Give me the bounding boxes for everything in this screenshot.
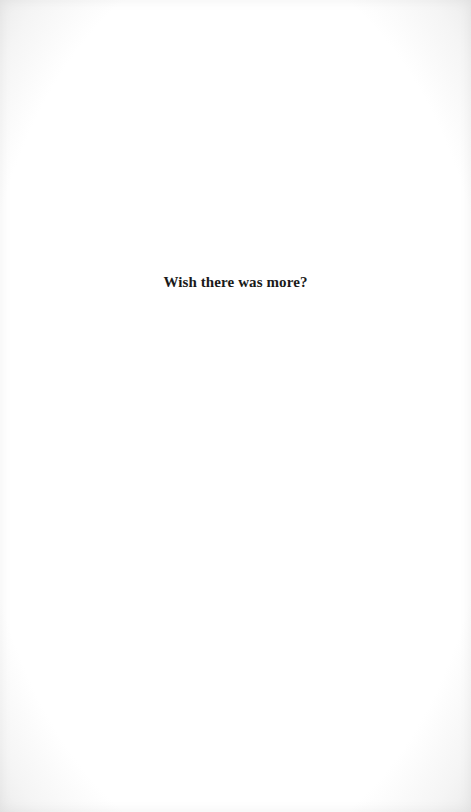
page-heading: Wish there was more?: [0, 274, 471, 291]
document-page: Wish there was more?: [0, 0, 471, 812]
